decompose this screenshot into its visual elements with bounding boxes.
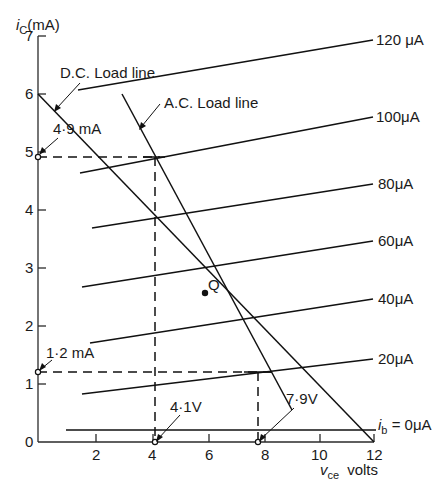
x-axis: 2 4 6 8 10 12 vcevolts [38,434,383,481]
y-tick-2: 2 [25,317,33,334]
curve-20uA [82,359,373,394]
ic-max-label: 4·9 mA [53,120,101,137]
curve-label-0uA: ib = 0μA [378,416,432,436]
curve-label-120uA: 120 μA [376,31,424,48]
marked-points: Q [35,154,260,444]
curve-label-80uA: 80μA [378,175,413,192]
ic-max-marker [35,154,40,159]
annotations: D.C. Load line A.C. Load line 4·9 mA 1·2… [39,64,318,442]
load-lines [38,94,374,442]
y-tick-1: 1 [25,375,33,392]
curve-label-100uA: 100μA [376,108,420,125]
curve-40uA [90,299,373,343]
transistor-output-characteristics: iC(mA) 0 1 2 3 4 5 6 7 2 4 6 8 10 12 vce… [0,0,446,484]
ac-load-line [122,94,292,410]
dc-load-line [38,94,374,442]
x-tick-6: 6 [205,446,213,463]
curve-label-20uA: 20μA [378,350,413,367]
y-tick-6: 6 [25,85,33,102]
y-tick-3: 3 [25,259,33,276]
y-tick-4: 4 [25,201,33,218]
y-tick-0: 0 [25,433,33,450]
curve-label-40uA: 40μA [378,290,413,307]
x-tick-8: 8 [261,446,269,463]
y-axis: iC(mA) 0 1 2 3 4 5 6 7 [16,16,60,450]
vce-max-label: 7·9V [286,390,318,407]
curve-60uA [82,241,373,287]
characteristic-curves: 120 μA 100μA 80μA 60μA 40μA 20μA ib = 0μ… [66,31,432,436]
x-tick-2: 2 [92,446,100,463]
arrow-head-icon [39,147,46,155]
arrow-head-icon [139,122,146,130]
q-point-label: Q [208,276,220,293]
ic-min-label: 1·2 mA [46,344,94,361]
curve-100uA [80,117,373,173]
y-axis-label: iC(mA) [16,16,60,36]
x-axis-label: vcevolts [320,461,378,481]
arrow-head-icon [39,363,46,371]
vce-min-label: 4·1V [170,398,202,415]
curve-80uA [92,184,373,228]
curve-label-60uA: 60μA [378,232,413,249]
x-tick-4: 4 [148,446,156,463]
dc-load-line-label: D.C. Load line [60,64,155,81]
y-tick-7: 7 [25,27,33,44]
y-tick-5: 5 [25,143,33,160]
ac-load-line-label: A.C. Load line [164,94,258,111]
